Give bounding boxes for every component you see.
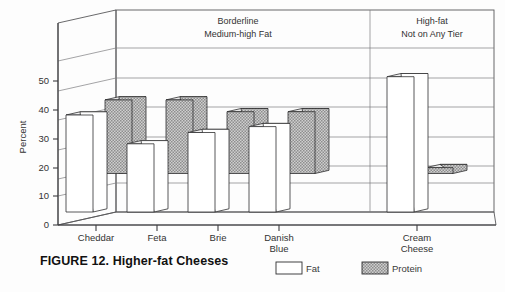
y-tick-40: 40 [38,104,49,115]
bar-feta-fat [127,141,168,212]
y-axis: 50 40 30 20 10 0 Percent [17,23,58,230]
y-axis-title: Percent [17,120,28,153]
legend-item-protein[interactable]: Protein [362,262,422,274]
cat-label-brie: Brie [210,232,227,243]
y-tick-10: 10 [38,190,49,201]
bar-danish-blue-protein [288,109,329,174]
bar-brie-fat [188,129,229,212]
cat-label-feta: Feta [147,232,167,243]
bar-chart-3d: 50 40 30 20 10 0 Percent Borderline Medi… [0,0,505,292]
figure-container: 50 40 30 20 10 0 Percent Borderline Medi… [0,0,505,292]
bar-group-cream-cheese [387,74,467,213]
cat-label-cream-cheese-line1: Cream [403,232,432,243]
legend-swatch-fat [276,262,302,274]
legend-label-fat: Fat [306,263,320,274]
cat-label-cheddar: Cheddar [78,232,114,243]
y-tick-50: 50 [38,75,49,86]
legend-label-protein: Protein [392,263,422,274]
panel-label-borderline-line2: Medium-high Fat [204,29,272,39]
y-tick-20: 20 [38,162,49,173]
cat-label-danish-blue-line1: Danish [264,232,294,243]
y-tick-0: 0 [44,219,49,230]
panel-labels: Borderline Medium-high Fat High-fat Not … [204,16,463,39]
panel-label-highfat-line1: High-fat [416,16,448,26]
cat-label-cream-cheese-line2: Cheese [401,243,434,254]
panel-label-highfat-line2: Not on Any Tier [401,29,463,39]
legend-item-fat[interactable]: Fat [276,262,320,274]
chart-legend: Fat Protein [276,262,422,274]
x-axis [58,225,496,231]
figure-title: FIGURE 12. Higher-fat Cheeses [40,254,228,268]
bar-danish-blue-fat [249,123,290,212]
panel-label-borderline-line1: Borderline [217,16,258,26]
category-labels: Cheddar Feta Brie Danish Blue Cream Chee… [78,232,434,254]
bar-cream-cheese-fat [387,74,428,213]
legend-swatch-protein [362,262,388,274]
y-tick-30: 30 [38,133,49,144]
cat-label-danish-blue-line2: Blue [269,243,288,254]
bar-group-danish-blue [249,109,329,213]
bar-cheddar-fat [66,112,107,212]
